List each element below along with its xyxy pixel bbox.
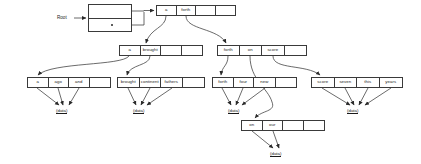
edge-seven-to-data4 xyxy=(345,88,354,105)
trie-node-brought-continent-fathers: broughtcontinentfathers xyxy=(117,77,205,88)
trie-cell-empty xyxy=(216,6,235,15)
trie-cell-four: four xyxy=(234,78,255,87)
trie-cell-empty xyxy=(90,78,110,87)
trie-cell-empty xyxy=(276,78,296,87)
trie-cell-empty xyxy=(285,46,307,55)
trie-cell-years: years xyxy=(380,78,402,87)
trie-cell-empty xyxy=(183,78,204,87)
data-leaf-1: (data) xyxy=(56,108,67,114)
trie-node-a-ago-and: aagoand xyxy=(27,77,111,88)
trie-cell-this: this xyxy=(357,78,380,87)
edge-our-to-data5 xyxy=(273,131,279,148)
trie-cell-our: our xyxy=(263,121,284,130)
edge-score-to-data4 xyxy=(322,88,350,105)
data-leaf-2: (data) xyxy=(133,108,144,114)
root-pointer-box xyxy=(88,4,132,32)
edge-level1forth-to-forthonscore xyxy=(186,16,226,43)
edge-continent-to-data2 xyxy=(141,88,150,105)
trie-cell-and: and xyxy=(69,78,90,87)
trie-cell-forth: forth xyxy=(218,46,240,55)
root-box-divider xyxy=(89,18,131,19)
edge-forth-to-forthfournew xyxy=(221,56,228,75)
trie-cell-score: score xyxy=(312,78,335,87)
edge-score-to-scoreseventhisyears xyxy=(273,56,320,75)
trie-cell-a: a xyxy=(28,78,49,87)
trie-cell-brought: brought xyxy=(118,78,140,87)
edge-new-to-data3 xyxy=(242,88,265,105)
edge-ago-to-data1 xyxy=(58,88,63,105)
edge-brought-to-data2 xyxy=(128,88,136,105)
trie-node-on-our: onour xyxy=(241,120,325,131)
edge-a-to-data1 xyxy=(37,88,59,105)
trie-node-level1: aforth xyxy=(156,5,236,16)
trie-cell-a: a xyxy=(157,6,177,15)
trie-node-a-brought: abrought xyxy=(119,45,203,56)
trie-cell-ago: ago xyxy=(49,78,70,87)
edge-forth-to-data3 xyxy=(222,88,231,105)
trie-cell-fathers: fathers xyxy=(161,78,183,87)
edge-rootbox-top-to-level1 xyxy=(132,11,154,12)
trie-cell-a: a xyxy=(120,46,141,55)
edge-brought-to-broughtcontinentfathers xyxy=(127,56,150,75)
trie-cell-on: on xyxy=(240,46,263,55)
trie-cell-empty xyxy=(283,121,304,130)
edge-level1a-to-abrought xyxy=(146,16,166,43)
data-leaf-4: (data) xyxy=(347,108,358,114)
trie-cell-forth: forth xyxy=(213,78,234,87)
trie-cell-score: score xyxy=(262,46,285,55)
edge-and-to-data1 xyxy=(69,88,79,105)
edge-four-to-data3 xyxy=(236,88,243,105)
edge-years-to-data4 xyxy=(365,88,391,105)
edge-fathers-to-data2 xyxy=(147,88,172,105)
diagram-canvas: Root aforthabroughtforthonscoreaagoandbr… xyxy=(0,0,421,164)
trie-cell-seven: seven xyxy=(335,78,358,87)
edge-on-to-data5 xyxy=(252,131,273,148)
trie-cell-continent: continent xyxy=(140,78,162,87)
data-leaf-5: (data) xyxy=(270,151,281,157)
trie-node-score-seven-this-years: scoreseventhisyears xyxy=(311,77,403,88)
trie-cell-empty xyxy=(304,121,324,130)
data-leaf-3: (data) xyxy=(228,108,239,114)
trie-cell-empty xyxy=(182,46,202,55)
trie-node-forth-four-new: forthfournew xyxy=(212,77,297,88)
trie-cell-new: new xyxy=(254,78,275,87)
root-label: Root xyxy=(57,15,67,20)
trie-node-forth-on-score: forthonscore xyxy=(217,45,307,56)
trie-cell-forth: forth xyxy=(177,6,197,15)
edge-this-to-data4 xyxy=(359,88,368,105)
trie-cell-brought: brought xyxy=(141,46,162,55)
trie-cell-on: on xyxy=(242,121,263,130)
trie-cell-empty xyxy=(161,46,182,55)
trie-cell-empty xyxy=(196,6,216,15)
edge-a-to-aagoand xyxy=(38,56,129,75)
